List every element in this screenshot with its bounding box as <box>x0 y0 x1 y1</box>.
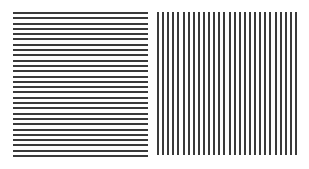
vertical-line <box>295 12 297 155</box>
vertical-line <box>198 12 200 155</box>
horizontal-line <box>13 134 148 136</box>
vertical-line <box>203 12 205 155</box>
vertical-line <box>264 12 266 155</box>
horizontal-line <box>13 44 148 46</box>
horizontal-line <box>13 65 148 67</box>
horizontal-line <box>13 150 148 152</box>
vertical-line <box>239 12 241 155</box>
vertical-line <box>218 12 220 155</box>
horizontal-line <box>13 49 148 51</box>
horizontal-line <box>13 144 148 146</box>
horizontal-line <box>13 123 148 125</box>
horizontal-line <box>13 38 148 40</box>
horizontal-line <box>13 86 148 88</box>
vertical-line <box>183 12 185 155</box>
horizontal-line <box>13 23 148 25</box>
vertical-line <box>208 12 210 155</box>
horizontal-line <box>13 81 148 83</box>
horizontal-line <box>13 155 148 157</box>
vertical-line <box>269 12 271 155</box>
vertical-line <box>157 12 159 155</box>
horizontal-line <box>13 28 148 30</box>
horizontal-line <box>13 97 148 99</box>
vertical-line <box>188 12 190 155</box>
horizontal-line <box>13 118 148 120</box>
horizontal-line <box>13 129 148 131</box>
horizontal-line <box>13 70 148 72</box>
vertical-line <box>172 12 174 155</box>
vertical-line <box>285 12 287 155</box>
horizontal-line <box>13 91 148 93</box>
horizontal-line <box>13 12 148 14</box>
horizontal-line <box>13 60 148 62</box>
vertical-line <box>275 12 277 155</box>
horizontal-line <box>13 76 148 78</box>
vertical-line <box>223 12 225 155</box>
vertical-line <box>234 12 236 155</box>
horizontal-line <box>13 107 148 109</box>
vertical-line <box>229 12 231 155</box>
vertical-line <box>254 12 256 155</box>
vertical-line <box>177 12 179 155</box>
vertical-line <box>259 12 261 155</box>
vertical-line <box>167 12 169 155</box>
vertical-line <box>290 12 292 155</box>
horizontal-line <box>13 113 148 115</box>
horizontal-line <box>13 17 148 19</box>
vertical-line <box>280 12 282 155</box>
horizontal-line <box>13 139 148 141</box>
vertical-line <box>213 12 215 155</box>
horizontal-line <box>13 102 148 104</box>
vertical-line <box>244 12 246 155</box>
horizontal-line <box>13 33 148 35</box>
horizontal-line <box>13 54 148 56</box>
vertical-line <box>162 12 164 155</box>
vertical-line <box>249 12 251 155</box>
vertical-line <box>193 12 195 155</box>
